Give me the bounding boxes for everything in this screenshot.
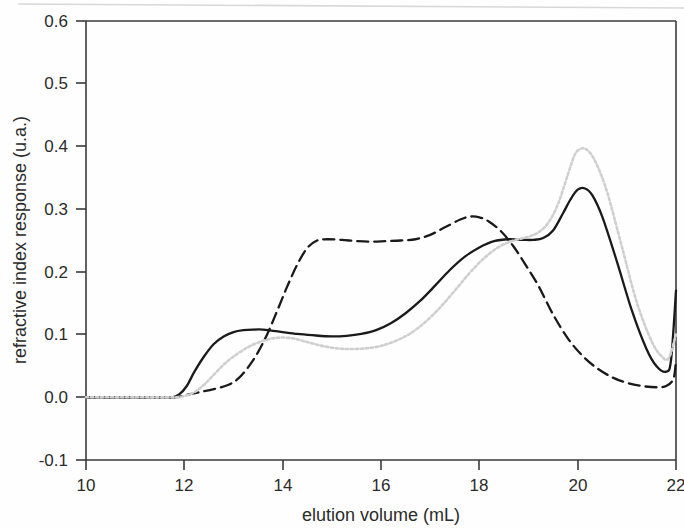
chart-canvas: 0.6 0.5 0.4 0.3 0.2 0.1 0.0 -0.1 10 12 1… xyxy=(0,0,684,529)
series-2-dashed xyxy=(86,216,676,397)
x-tick-label-10: 10 xyxy=(77,476,96,495)
y-tick-label-0.0: 0.0 xyxy=(44,388,68,407)
x-tick-label-16: 16 xyxy=(372,476,391,495)
scan-artifact-line xyxy=(18,4,684,8)
y-tick-marks xyxy=(76,21,86,460)
y-tick-label-0.1: 0.1 xyxy=(44,325,68,344)
data-curves xyxy=(86,148,676,397)
chromatogram-figure: 0.6 0.5 0.4 0.3 0.2 0.1 0.0 -0.1 10 12 1… xyxy=(0,0,684,529)
x-axis-title: elution volume (mL) xyxy=(302,505,460,525)
y-tick-label-0.2: 0.2 xyxy=(44,263,68,282)
x-tick-label-22: 22 xyxy=(667,476,684,495)
y-tick-label-0.5: 0.5 xyxy=(44,74,68,93)
x-tick-label-14: 14 xyxy=(274,476,293,495)
x-tick-label-18: 18 xyxy=(470,476,489,495)
y-axis-title: refractive index response (u.a.) xyxy=(10,116,30,364)
y-tick-label--0.1: -0.1 xyxy=(39,451,68,470)
y-tick-label-0.4: 0.4 xyxy=(44,137,68,156)
series-1-solid xyxy=(86,188,676,398)
x-tick-marks xyxy=(86,460,676,470)
y-tick-label-0.3: 0.3 xyxy=(44,200,68,219)
x-tick-label-20: 20 xyxy=(569,476,588,495)
y-tick-label-0.6: 0.6 xyxy=(44,12,68,31)
x-tick-label-12: 12 xyxy=(175,476,194,495)
